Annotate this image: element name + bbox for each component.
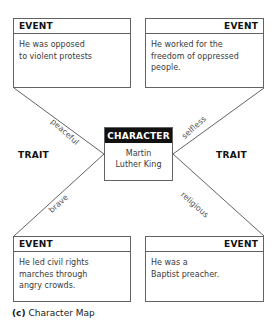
event-box-top-right: EVENT He worked for the freedom of oppre…	[145, 18, 264, 88]
event-line: freedom of oppressed	[151, 51, 258, 63]
character-header: CHARACTER	[105, 128, 172, 143]
event-body-top-right: He worked for the freedom of oppressed p…	[146, 34, 263, 74]
edge-label-peaceful: peaceful	[49, 117, 81, 147]
event-line: people.	[151, 62, 258, 74]
character-box: CHARACTER Martin Luther King	[104, 127, 173, 181]
caption-index: (c)	[12, 308, 26, 318]
character-name-line: Luther King	[105, 159, 172, 170]
event-box-bottom-right: EVENT He was a Baptist preacher.	[145, 236, 264, 302]
event-header-bottom-left: EVENT	[14, 237, 130, 252]
event-body-bottom-left: He led civil rights marches through angr…	[14, 252, 130, 292]
character-name-line: Martin	[105, 148, 172, 159]
caption-text: Character Map	[28, 308, 94, 318]
edge-label-religious: religious	[179, 190, 210, 219]
event-line: He was a	[151, 257, 258, 269]
event-header-top-left: EVENT	[14, 19, 130, 34]
figure-caption: (c) Character Map	[12, 308, 95, 318]
connector-bottom-left	[14, 154, 104, 236]
event-line: to violent protests	[19, 51, 125, 63]
character-map-figure: EVENT He was opposed to violent protests…	[0, 0, 279, 326]
event-line: marches through	[19, 269, 125, 281]
event-box-top-left: EVENT He was opposed to violent protests	[13, 18, 131, 88]
event-line: He was opposed	[19, 39, 125, 51]
event-body-bottom-right: He was a Baptist preacher.	[146, 252, 263, 280]
edge-label-selfless: selfless	[180, 114, 208, 141]
edge-label-brave: brave	[47, 193, 70, 215]
event-header-top-right: EVENT	[146, 19, 263, 34]
connector-top-right	[173, 88, 264, 154]
event-body-top-left: He was opposed to violent protests	[14, 34, 130, 62]
trait-label-left: TRAIT	[18, 150, 49, 160]
character-name: Martin Luther King	[105, 143, 172, 170]
event-line: angry crowds.	[19, 280, 125, 292]
event-line: He worked for the	[151, 39, 258, 51]
event-box-bottom-left: EVENT He led civil rights marches throug…	[13, 236, 131, 302]
event-header-bottom-right: EVENT	[146, 237, 263, 252]
trait-label-right: TRAIT	[216, 150, 247, 160]
event-line: Baptist preacher.	[151, 269, 258, 281]
event-line: He led civil rights	[19, 257, 125, 269]
